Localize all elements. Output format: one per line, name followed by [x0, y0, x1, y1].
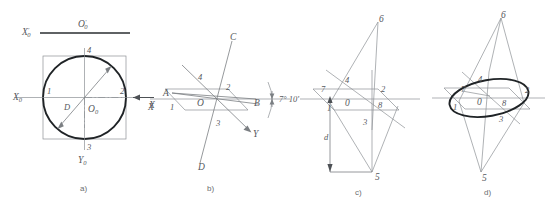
panel-c-point-2: 2 [381, 84, 386, 94]
panel-c-line-2-5 [372, 106, 398, 172]
label-o0-prime: O'0 [78, 18, 88, 30]
panel-d-line-1-5 [459, 101, 481, 172]
panel-c-line-1-5 [330, 103, 372, 172]
panel-d-point-6: 6 [501, 10, 506, 20]
panel-b-point-2: 2 [226, 82, 231, 92]
panel-a: X'0 O'0 1 2 3 4 D X0 [12, 18, 156, 193]
panel-b-label-d: D [197, 162, 205, 172]
panel-d-caption: d) [484, 188, 491, 197]
panel-a-diameter-label: D [63, 102, 71, 112]
panel-c-point-5: 5 [375, 172, 380, 182]
panel-c-point-6: 6 [379, 14, 384, 24]
panel-a-point-1: 1 [47, 86, 51, 96]
panel-a-label-x0: X0 [12, 92, 23, 103]
panel-c-point-8: 8 [378, 100, 383, 110]
panel-b: C D A B O Y X 7° 10' 1 2 3 4 b) [147, 32, 299, 193]
panel-a-point-3: 3 [86, 142, 91, 152]
panel-c-point-4: 4 [345, 75, 350, 85]
panel-b-label-o: O [197, 98, 204, 108]
panel-d-point-3: 3 [498, 114, 503, 124]
panel-b-line-cd [200, 41, 232, 163]
panel-c: 6 5 1 2 3 4 7 8 0 d c) [300, 14, 420, 197]
panel-d-label-origin: 0 [477, 97, 482, 107]
panel-b-label-x: X [147, 102, 155, 112]
panel-b-parallelogram [165, 89, 248, 110]
panel-d-line-4-5 [481, 72, 489, 172]
label-x0-prime: X'0 [21, 26, 31, 38]
panel-b-point-1: 1 [170, 102, 174, 112]
panel-c-caption: c) [355, 188, 362, 197]
panel-d: 6 5 1 2 3 4 7 8 0 d) [432, 10, 545, 197]
panel-b-label-b: B [254, 98, 260, 108]
panel-d-point-1: 1 [453, 102, 457, 112]
panel-b-point-3: 3 [215, 118, 220, 128]
panel-a-label-y0: Y0 [78, 155, 87, 166]
panel-a-label-o0: O0 [88, 104, 99, 115]
panel-d-point-4: 4 [478, 74, 483, 84]
panel-b-angle-bracket [268, 82, 274, 118]
panel-d-point-8: 8 [502, 98, 507, 108]
panel-b-label-angle: 7° 10' [279, 94, 299, 104]
panel-d-point-5: 5 [482, 173, 487, 183]
panel-a-point-4: 4 [87, 45, 92, 55]
panel-d-line-4-6 [489, 18, 501, 72]
panel-a-caption: a) [80, 184, 87, 193]
panel-b-point-4: 4 [198, 72, 203, 82]
panel-b-y-arrowhead [244, 126, 252, 133]
panel-b-label-y: Y [253, 129, 260, 139]
panel-d-line-2-6 [501, 18, 524, 103]
panel-c-line-5-6 [372, 22, 378, 130]
panel-b-caption: b) [207, 184, 214, 193]
panel-c-point-3: 3 [362, 117, 367, 127]
panel-c-label-origin: 0 [345, 98, 350, 108]
panel-c-point-1: 1 [327, 103, 331, 113]
panel-b-label-c: C [230, 32, 237, 42]
panel-c-label-d: d [324, 132, 329, 142]
panel-b-label-a: A [162, 88, 169, 98]
technical-drawing-figure: X'0 O'0 1 2 3 4 D X0 [0, 0, 548, 207]
